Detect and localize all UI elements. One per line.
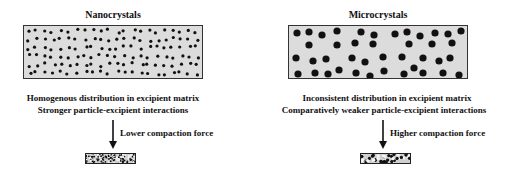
nanocrystals-matrix-box <box>23 25 203 79</box>
down-arrow-icon <box>108 120 118 150</box>
nanocrystals-caption-1: Homogenous distribution in excipient mat… <box>0 92 226 104</box>
microcrystals-caption-1: Inconsistent distribution in excipient m… <box>262 92 512 104</box>
microparticle-dots <box>289 26 467 78</box>
microcrystals-title: Microcrystals <box>288 9 468 20</box>
higher-compaction-force-label: Higher compaction force <box>390 128 485 138</box>
coarse-compact-texture <box>361 154 410 163</box>
nanocrystals-caption-2: Stronger particle-excipient interactions <box>0 104 226 116</box>
dense-compact-texture <box>86 154 135 163</box>
down-arrow-icon <box>378 120 388 150</box>
microcrystals-caption-2: Comparatively weaker particle-excipient … <box>256 104 512 116</box>
nanocrystals-title: Nanocrystals <box>23 9 203 20</box>
nanocrystal-compact-tablet <box>85 153 136 164</box>
microcrystal-compact-tablet <box>360 153 411 164</box>
microcrystals-matrix-box <box>288 25 468 79</box>
lower-compaction-force-label: Lower compaction force <box>120 128 213 138</box>
nanoparticle-dots <box>24 26 202 78</box>
